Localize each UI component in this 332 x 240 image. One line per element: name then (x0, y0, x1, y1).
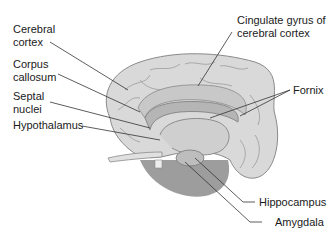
label-cingulate-gyrus: Cingulate gyrus of cerebral cortex (237, 14, 326, 40)
label-cerebral-cortex: Cerebral cortex (13, 23, 55, 49)
label-corpus-callosum: Corpus callosum (13, 58, 56, 84)
label-septal-nuclei: Septal nuclei (13, 90, 44, 116)
brain-diagram: Cerebral cortex Corpus callosum Septal n… (0, 0, 332, 240)
label-hippocampus: Hippocampus (259, 196, 326, 209)
pituitary (155, 160, 162, 168)
label-fornix: Fornix (293, 84, 324, 97)
label-hypothalamus: Hypothalamus (13, 119, 83, 132)
label-amygdala: Amygdala (275, 216, 324, 229)
hippocampus-structure (176, 150, 204, 166)
